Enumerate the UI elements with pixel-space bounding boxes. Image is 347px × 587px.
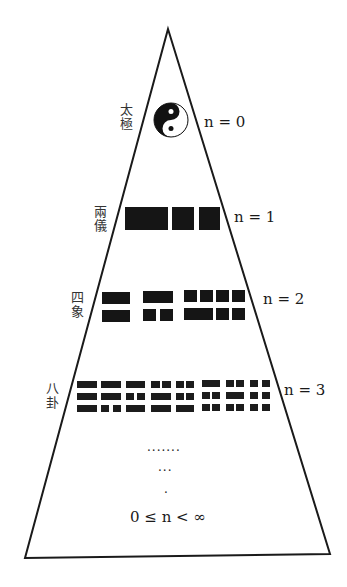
- level-0-n-label: n = 0: [204, 113, 245, 131]
- level-3-blocks: [77, 380, 270, 412]
- level-2-n-label: n = 2: [263, 290, 304, 308]
- level-2-label: 四象: [70, 291, 84, 319]
- level-1-label: 兩儀: [93, 205, 107, 233]
- level-3-label: 八卦: [45, 382, 59, 410]
- level-1-blocks: [125, 207, 220, 230]
- ellipsis-row-1: .......: [147, 440, 181, 454]
- level-3-n-label: n = 3: [284, 381, 325, 399]
- level-0-label: 太極: [119, 103, 133, 131]
- taiji-icon: [154, 103, 188, 137]
- level-2-blocks: [102, 290, 245, 322]
- ellipsis-row-2: ...: [158, 460, 172, 474]
- level-1-n-label: n = 1: [234, 208, 275, 226]
- range-label: 0 ≤ n < ∞: [130, 508, 206, 526]
- ellipsis-row-3: .: [164, 482, 169, 496]
